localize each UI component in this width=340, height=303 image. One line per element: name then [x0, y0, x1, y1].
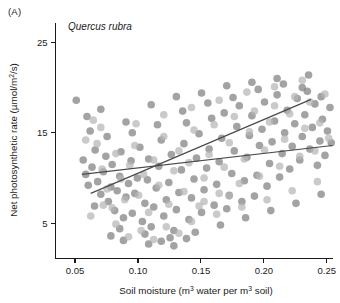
data-point	[236, 102, 244, 110]
data-point	[321, 90, 329, 98]
data-point	[292, 200, 300, 208]
data-point	[165, 179, 173, 187]
data-point	[147, 223, 155, 231]
data-point	[220, 109, 228, 117]
data-point	[160, 212, 168, 220]
data-point	[288, 143, 296, 151]
data-point	[325, 134, 333, 142]
data-point	[91, 202, 99, 210]
data-point	[210, 201, 218, 209]
data-point	[147, 101, 155, 109]
data-point	[298, 133, 306, 141]
data-point	[112, 150, 120, 158]
data-point	[225, 192, 233, 200]
y-axis-title: Net photosynthetic rate (µmol/m2/s)	[8, 63, 19, 217]
data-point	[266, 160, 274, 168]
data-point	[314, 162, 322, 170]
data-point	[170, 242, 178, 250]
data-point	[160, 111, 168, 119]
data-point	[254, 86, 262, 94]
data-point	[175, 147, 183, 155]
data-point	[141, 200, 149, 208]
data-point	[129, 209, 137, 217]
data-point	[215, 190, 223, 198]
data-point	[198, 89, 206, 97]
data-point	[173, 93, 181, 101]
data-point	[223, 82, 231, 90]
data-point	[102, 153, 110, 161]
data-point	[168, 151, 176, 159]
y-tick-label: 5	[42, 218, 47, 229]
data-point	[286, 110, 294, 118]
data-point	[230, 147, 238, 155]
data-point	[276, 173, 284, 181]
data-point	[100, 201, 108, 209]
data-point	[183, 235, 191, 243]
data-point	[316, 119, 324, 127]
data-point	[263, 196, 271, 204]
data-point	[213, 210, 221, 218]
data-point	[281, 135, 289, 143]
data-point	[108, 204, 116, 212]
data-point	[309, 124, 317, 132]
data-point	[154, 121, 162, 129]
data-point	[72, 96, 80, 104]
data-point	[321, 152, 329, 160]
data-point	[103, 133, 111, 141]
data-point	[273, 91, 281, 99]
data-point	[204, 99, 212, 107]
data-point	[191, 228, 199, 236]
data-point	[251, 192, 259, 200]
data-point	[228, 170, 236, 178]
data-point	[230, 113, 238, 121]
data-point	[301, 111, 309, 119]
scatter-plot-svg: 515250.050.100.150.200.25 Soil moisture …	[0, 0, 340, 303]
data-point	[220, 163, 228, 171]
data-point	[291, 93, 299, 101]
data-point	[225, 139, 233, 147]
data-point	[87, 212, 95, 220]
data-point	[135, 191, 143, 199]
data-point	[107, 232, 115, 240]
data-point	[246, 128, 254, 136]
data-point	[305, 71, 313, 79]
y-tick-label: 25	[37, 37, 48, 48]
x-tick-label: 0.20	[255, 265, 274, 276]
data-point	[291, 120, 299, 128]
data-point	[217, 221, 225, 229]
data-point	[108, 161, 116, 169]
data-point	[213, 181, 221, 189]
data-point	[84, 181, 92, 189]
data-point	[120, 214, 128, 222]
data-point	[131, 142, 139, 150]
data-point	[261, 98, 269, 106]
data-point	[288, 187, 296, 195]
data-point	[170, 167, 178, 175]
data-point	[179, 107, 187, 115]
data-point	[157, 238, 165, 246]
data-point	[166, 234, 174, 242]
data-point	[86, 127, 94, 135]
data-point	[266, 118, 274, 126]
data-point	[150, 156, 158, 164]
data-point	[205, 151, 213, 159]
data-point	[317, 191, 325, 199]
data-point	[112, 220, 120, 228]
data-point	[215, 96, 223, 104]
data-point	[97, 191, 105, 199]
data-point	[256, 172, 264, 180]
data-point	[301, 124, 309, 132]
data-point	[188, 194, 196, 202]
data-point	[267, 207, 275, 215]
data-point	[183, 119, 191, 127]
data-point	[125, 180, 133, 188]
data-point	[258, 125, 266, 133]
data-point	[236, 180, 244, 188]
x-tick-label: 0.05	[66, 265, 85, 276]
data-point	[145, 209, 153, 217]
data-point	[93, 140, 101, 148]
data-point	[97, 106, 105, 114]
data-point	[251, 107, 259, 115]
x-tick-label: 0.25	[318, 265, 337, 276]
data-point	[200, 186, 208, 194]
